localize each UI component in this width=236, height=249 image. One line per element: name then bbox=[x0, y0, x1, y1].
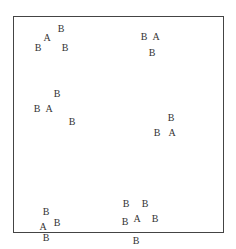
point-label-b: B bbox=[142, 199, 149, 209]
point-label-b: B bbox=[43, 207, 50, 217]
point-label-b: B bbox=[152, 214, 159, 224]
point-label-b: B bbox=[154, 128, 161, 138]
point-label-b: B bbox=[43, 233, 50, 243]
point-label-b: B bbox=[149, 48, 156, 58]
point-label-b: B bbox=[69, 117, 76, 127]
diagram-frame bbox=[13, 16, 224, 233]
point-label-b: B bbox=[34, 104, 41, 114]
point-label-b: B bbox=[54, 89, 61, 99]
point-label-b: B bbox=[123, 199, 130, 209]
point-label-b: B bbox=[58, 24, 65, 34]
point-label-b: B bbox=[133, 236, 140, 246]
point-label-b: B bbox=[35, 43, 42, 53]
point-label-a: A bbox=[39, 222, 46, 232]
point-label-b: B bbox=[122, 217, 129, 227]
point-label-b: B bbox=[62, 43, 69, 53]
point-label-a: A bbox=[133, 214, 140, 224]
point-label-a: A bbox=[152, 32, 159, 42]
point-label-a: A bbox=[43, 33, 50, 43]
point-label-a: A bbox=[168, 128, 175, 138]
point-label-b: B bbox=[168, 113, 175, 123]
point-label-a: A bbox=[45, 104, 52, 114]
point-label-b: B bbox=[141, 32, 148, 42]
point-label-b: B bbox=[54, 218, 61, 228]
